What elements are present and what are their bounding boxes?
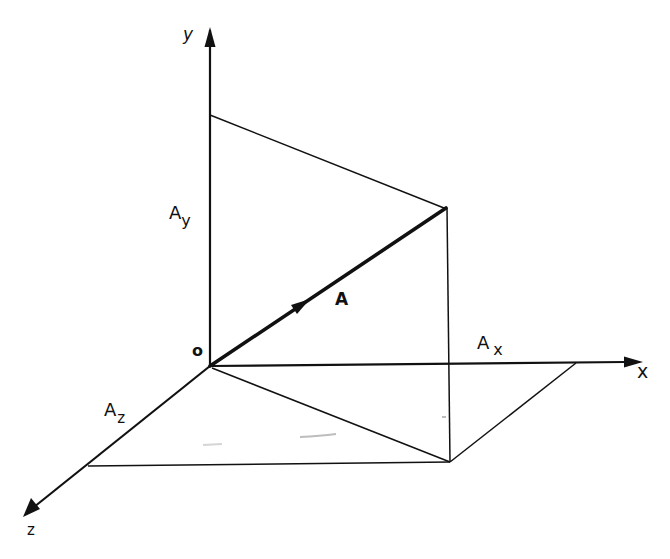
y-axis-label: y xyxy=(182,24,194,44)
x-axis-label: x xyxy=(637,360,648,382)
z-axis-label: z xyxy=(27,521,35,539)
vector-components-diagram: y x z o A Ay Ax Az xyxy=(0,0,670,559)
origin-label: o xyxy=(192,341,203,360)
vector-a xyxy=(210,208,446,366)
construction-lines xyxy=(88,115,576,466)
vector-a-label: A xyxy=(335,289,349,309)
vertical-drop-line xyxy=(447,208,450,462)
component-ay-main: A xyxy=(169,202,182,223)
vector-a-line xyxy=(210,208,446,366)
z-axis-arrowhead-icon xyxy=(23,498,40,517)
component-az-sub: z xyxy=(117,409,125,427)
component-ax-label: Ax xyxy=(477,332,503,359)
axes xyxy=(23,27,643,517)
scan-smudges xyxy=(203,417,446,445)
component-az-main: A xyxy=(104,399,117,420)
component-ax-main: A xyxy=(477,332,490,353)
z-axis xyxy=(34,366,210,507)
y-axis-arrowhead-icon xyxy=(205,27,216,47)
component-ax-sub: x xyxy=(493,340,502,359)
x-axis xyxy=(210,362,625,366)
floor-line-parallel-z xyxy=(450,363,576,462)
component-az-label: Az xyxy=(104,399,125,427)
component-ay-sub: y xyxy=(181,211,190,230)
xz-projection-diagonal xyxy=(212,368,450,462)
component-ay-label: Ay xyxy=(169,202,191,230)
floor-line-parallel-x xyxy=(88,462,450,466)
ay-projection-line xyxy=(210,115,444,208)
